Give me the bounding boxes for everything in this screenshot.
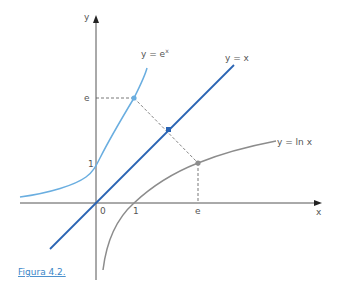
x-axis-arrow-icon [314,200,322,206]
point-exp [131,95,136,100]
curve-exp [20,68,147,197]
label-log: y = ln x [277,137,313,147]
curve-identity [50,65,234,249]
label-identity: y = x [225,53,250,63]
point-identity [166,127,171,132]
y-axis-arrow-icon [93,15,99,23]
x-tick-e: e [195,206,201,216]
origin-label: 0 [100,206,106,216]
y-tick-e: e [84,93,90,103]
x-axis-label: x [316,207,322,217]
y-axis-label: y [84,12,90,22]
figure-caption: Figura 4.2. [18,267,66,277]
x-tick-1: 1 [133,206,139,216]
curve-log [103,141,276,270]
label-exp: y = ex [141,47,169,59]
figure-canvas: y x 0 1 e 1 e y = ex y = x y = ln x Figu… [0,0,337,294]
point-log [195,160,200,165]
y-tick-1: 1 [88,159,94,169]
